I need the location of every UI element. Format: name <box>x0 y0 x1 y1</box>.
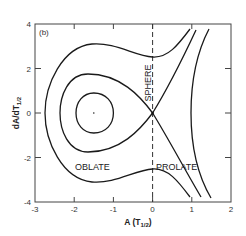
y-axis-label-main: dA/dT <box>11 104 21 129</box>
center-point <box>93 112 95 114</box>
plot-frame <box>35 24 231 202</box>
right-open-orbit <box>191 29 211 198</box>
x-tick-label: 1 <box>190 205 195 214</box>
y-ticks <box>35 69 231 158</box>
y-tick-label: 4 <box>27 20 32 29</box>
x-ticks <box>74 24 192 202</box>
saddle-point <box>151 112 154 115</box>
inner-closed-orbit <box>76 93 113 133</box>
y-axis-label-sub: 1/2 <box>16 96 22 105</box>
x-tick-label: 0 <box>150 205 155 214</box>
y-axis-label: dA/dT1/2 <box>11 96 22 129</box>
y-tick-label: -4 <box>24 198 32 207</box>
prolate-label: PROLATE <box>156 162 197 172</box>
oblate-label: OBLATE <box>75 162 110 172</box>
x-axis-label-close: ) <box>149 217 152 227</box>
x-tick-label: -1 <box>110 205 118 214</box>
x-tick-label: 2 <box>229 205 234 214</box>
y-tick-label: 2 <box>27 65 32 74</box>
x-axis-label-main: A (T <box>124 217 141 227</box>
x-axis-label: A (T1/2) <box>124 217 152 228</box>
y-tick-label: -2 <box>24 154 32 163</box>
x-tick-label: -2 <box>71 205 79 214</box>
y-tick-label: 0 <box>27 109 32 118</box>
x-tick-label: -3 <box>31 205 39 214</box>
sphere-label: SPHERE <box>143 64 153 101</box>
phase-portrait-chart: -3 -2 -1 0 1 2 4 2 0 -2 -4 A (T1/2) dA/d… <box>0 0 246 236</box>
panel-label: (b) <box>39 28 49 37</box>
